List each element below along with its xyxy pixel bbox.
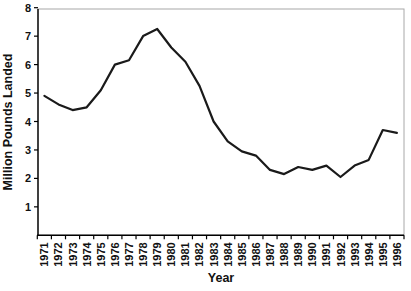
x-tick-label: 1982: [193, 242, 205, 266]
x-tick-label: 1980: [165, 242, 177, 266]
y-tick-label: 5: [25, 87, 31, 99]
x-tick-label: 1979: [151, 242, 163, 266]
axes: [37, 9, 404, 235]
x-tick-label: 1992: [335, 242, 347, 266]
x-tick-label: 1986: [250, 242, 262, 266]
x-tick-label: 1990: [306, 242, 318, 266]
y-tick-label: 6: [25, 59, 31, 71]
x-tick-label: 1984: [222, 241, 234, 266]
y-axis-tick-labels: 12345678: [25, 2, 32, 213]
y-tick-label: 8: [25, 2, 31, 14]
x-tick-label: 1995: [377, 242, 389, 266]
x-tick-label: 1978: [137, 242, 149, 266]
y-tick-label: 1: [25, 201, 31, 213]
x-tick-label: 1975: [95, 242, 107, 266]
x-tick-label: 1974: [81, 241, 93, 266]
x-tick-label: 1981: [179, 242, 191, 266]
x-tick-label: 1977: [123, 242, 135, 266]
x-tick-label: 1996: [391, 242, 403, 266]
x-tick-label: 1991: [320, 242, 332, 266]
y-tick-label: 3: [25, 144, 31, 156]
x-tick-label: 1985: [236, 242, 248, 266]
x-tick-label: 1987: [264, 242, 276, 266]
plot-area: 12345678 1971197219731974197519761977197…: [0, 0, 411, 291]
x-tick-label: 1988: [278, 242, 290, 266]
y-tick-label: 2: [25, 172, 31, 184]
plot-border: [38, 9, 404, 235]
y-axis-title: Million Pounds Landed: [1, 54, 15, 191]
x-tick-label: 1976: [109, 242, 121, 266]
x-tick-label: 1972: [52, 242, 64, 266]
x-tick-label: 1993: [349, 242, 361, 266]
x-tick-label: 1973: [67, 242, 79, 266]
data-series-line: [44, 29, 397, 177]
x-tick-label: 1989: [292, 242, 304, 266]
x-axis-tick-labels: 1971197219731974197519761977197819791980…: [38, 241, 403, 266]
x-tick-label: 1994: [363, 241, 375, 266]
line-chart: 12345678 1971197219731974197519761977197…: [0, 0, 411, 291]
x-tick-label: 1983: [208, 242, 220, 266]
y-tick-label: 7: [25, 30, 31, 42]
y-tick-label: 4: [25, 116, 32, 128]
x-tick-label: 1971: [38, 242, 50, 266]
x-axis-title: Year: [208, 271, 235, 285]
